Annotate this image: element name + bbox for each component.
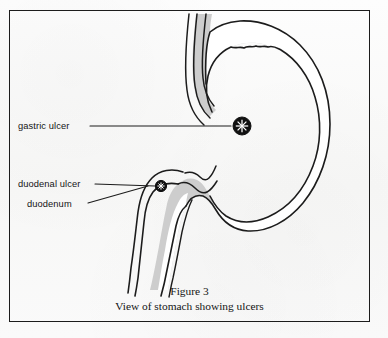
gastric-ulcer-marker[interactable] bbox=[233, 117, 251, 135]
duodenal-ulcer-hub bbox=[160, 185, 162, 187]
figure-page: gastric ulcer duodenal ulcer duodenum Fi… bbox=[0, 0, 388, 338]
caption-figure-number: Figure 3 bbox=[9, 285, 370, 297]
duodenum-leader-line bbox=[88, 186, 148, 203]
label-duodenal-ulcer: duodenal ulcer bbox=[18, 179, 80, 189]
gastric-ulcer-hub bbox=[241, 125, 244, 128]
caption-figure-title: View of stomach showing ulcers bbox=[9, 300, 370, 312]
lesser-curvature-notch bbox=[185, 166, 216, 180]
label-duodenum: duodenum bbox=[27, 199, 72, 209]
label-gastric-ulcer: gastric ulcer bbox=[18, 121, 69, 131]
duodenal-ulcer-marker[interactable] bbox=[155, 180, 166, 191]
lumen-group bbox=[158, 21, 330, 290]
